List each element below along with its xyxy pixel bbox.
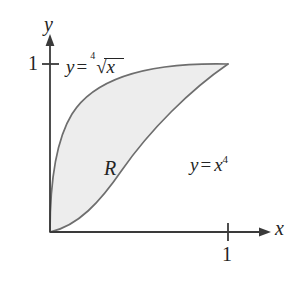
figure-canvas: y x 1 1 R y=4√x y=x4 (0, 0, 294, 285)
diagram-svg (0, 0, 294, 285)
equation-equals-sign: = (198, 154, 214, 175)
curve-label-lower-equation: y=x4 (190, 155, 228, 174)
equation-equals-sign: = (74, 56, 90, 77)
x-axis-label: x (275, 218, 284, 238)
radical-index-4: 4 (90, 51, 95, 61)
y-axis-tick-label-1: 1 (28, 53, 38, 73)
region-label-R: R (104, 158, 116, 178)
radical-group: 4√x (90, 57, 116, 76)
x-axis-tick-label-1: 1 (222, 244, 232, 264)
y-axis-arrowhead (46, 34, 55, 46)
radicand-x: x (107, 56, 116, 77)
y-axis-label: y (44, 14, 53, 34)
radical-vinculum (104, 58, 124, 59)
power-base-x: x (214, 154, 222, 175)
curve-label-upper-equation: y=4√x (66, 57, 116, 76)
power-exponent-4: 4 (223, 153, 229, 165)
x-axis-arrowhead (259, 228, 271, 237)
